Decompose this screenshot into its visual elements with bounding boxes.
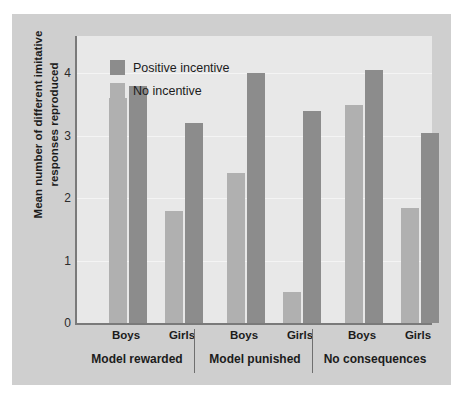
x-label-model-punished-girls: Girls — [270, 329, 330, 341]
bar-no-consequences-girls-no-incentive — [401, 208, 419, 323]
x-label-no-consequences-girls: Girls — [388, 329, 448, 341]
y-tick-3: 3 — [57, 130, 71, 142]
y-tick-0: 0 — [57, 317, 71, 329]
legend-swatch-no-incentive — [110, 83, 125, 98]
bar-model-punished-girls-no-incentive — [283, 292, 301, 323]
legend-label-no-incentive: No incentive — [133, 84, 202, 98]
bar-model-punished-boys-no-incentive — [227, 173, 245, 323]
x-label-model-rewarded-girls: Girls — [152, 329, 212, 341]
bar-model-punished-boys-positive-incentive — [247, 73, 265, 323]
group-label-model-punished: Model punished — [199, 352, 311, 366]
y-tick-2: 2 — [57, 192, 71, 204]
bar-model-rewarded-girls-no-incentive — [165, 211, 183, 323]
chart-figure: Mean number of different imitative respo… — [12, 14, 451, 385]
legend-item-positive-incentive: Positive incentive — [110, 58, 230, 77]
y-tick-4: 4 — [57, 67, 71, 79]
bar-model-rewarded-boys-no-incentive — [109, 98, 127, 323]
bar-model-rewarded-girls-positive-incentive — [185, 123, 203, 323]
y-axis-tick-labels: 4 3 2 1 0 — [55, 36, 71, 325]
legend-label-positive-incentive: Positive incentive — [133, 61, 230, 75]
bar-model-rewarded-boys-positive-incentive — [129, 86, 147, 323]
chart-legend: Positive incentive No incentive — [110, 58, 230, 104]
group-label-model-rewarded: Model rewarded — [81, 352, 193, 366]
group-separator-2 — [312, 329, 313, 373]
x-label-model-punished-boys: Boys — [214, 329, 274, 341]
bar-no-consequences-boys-no-incentive — [345, 105, 363, 323]
y-tick-1: 1 — [57, 255, 71, 267]
x-label-model-rewarded-boys: Boys — [96, 329, 156, 341]
bar-no-consequences-boys-positive-incentive — [365, 70, 383, 323]
group-separator-1 — [194, 329, 195, 373]
bar-no-consequences-girls-positive-incentive — [421, 133, 439, 323]
bar-model-punished-girls-positive-incentive — [303, 111, 321, 323]
group-label-no-consequences: No consequences — [318, 352, 432, 366]
x-label-no-consequences-boys: Boys — [332, 329, 392, 341]
plot-area: Positive incentive No incentive — [75, 36, 432, 325]
legend-item-no-incentive: No incentive — [110, 81, 230, 100]
legend-swatch-positive-incentive — [110, 60, 125, 75]
x-axis-labels: Boys Girls Boys Girls Boys Girls Model r… — [75, 327, 432, 383]
